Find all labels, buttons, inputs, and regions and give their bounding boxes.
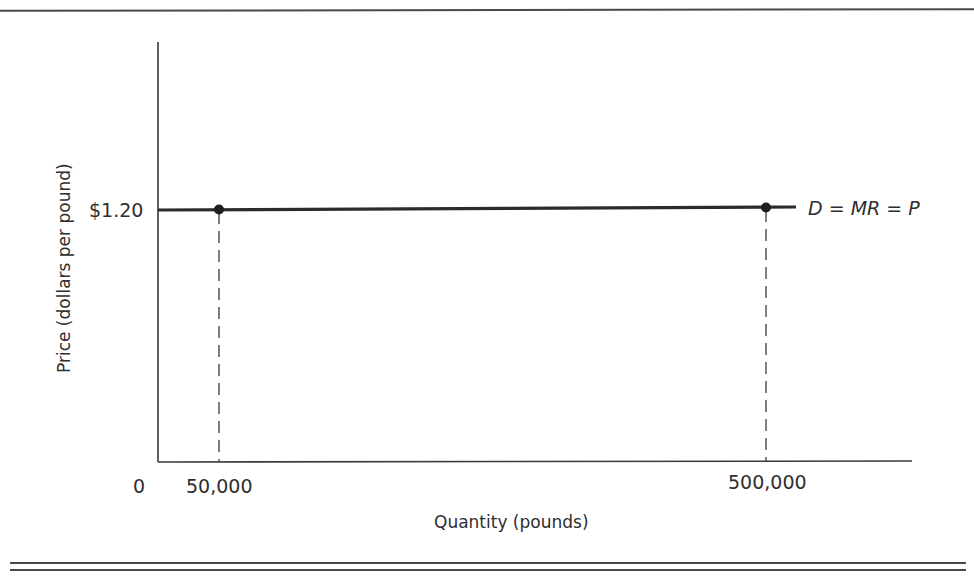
point-50000: [214, 205, 224, 215]
x-axis: [158, 461, 912, 462]
demand-line: [158, 207, 796, 210]
x-tick-label-50000: 50,000: [186, 475, 252, 497]
point-500000: [761, 203, 771, 213]
y-tick-label: $1.20: [89, 199, 143, 221]
x-axis-title: Quantity (pounds): [434, 512, 589, 532]
x-origin-label: 0: [133, 475, 145, 497]
curve-label: D = MR = P: [808, 197, 920, 219]
chart-plot: [0, 0, 974, 581]
x-tick-label-500000: 500,000: [728, 471, 807, 493]
y-axis-title: Price (dollars per pound): [54, 163, 74, 373]
